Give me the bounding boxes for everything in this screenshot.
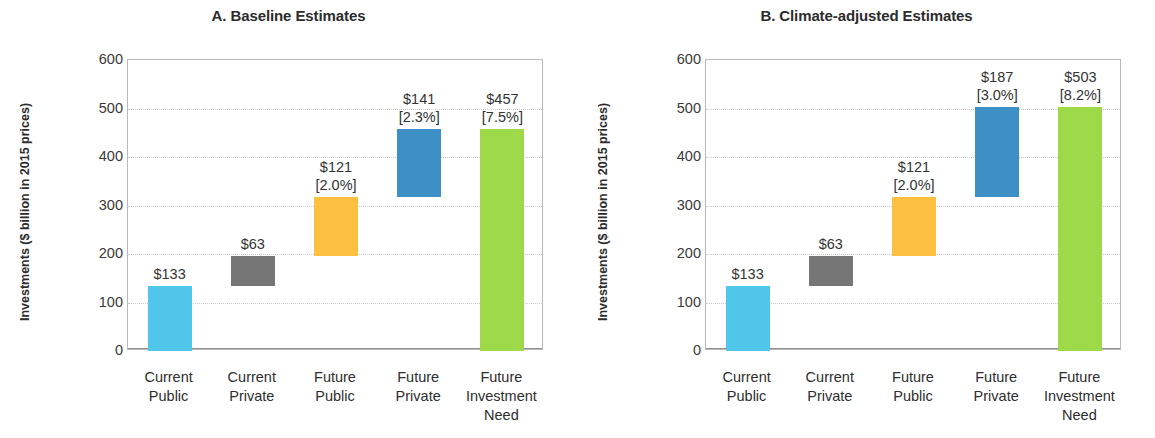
x-category-line: Need — [446, 406, 556, 425]
y-axis-title-b: Investments ($ billion in 2015 prices) — [596, 0, 636, 62]
bar-value-label: $63 — [819, 236, 843, 252]
bar-label-future-private: $187[3.0%] — [977, 68, 1018, 104]
x-category-line: Private — [209, 387, 295, 406]
y-tick-label-0: 0 — [659, 342, 701, 358]
x-category-line: Private — [787, 387, 873, 406]
y-tick-label-100: 100 — [659, 294, 701, 310]
y-axis-ticks-b: 0100200300400500600 — [657, 59, 701, 350]
y-tick-label-600: 600 — [81, 51, 123, 67]
x-category-future-public: FuturePublic — [870, 368, 956, 406]
bar-percent-label: [8.2%] — [1060, 86, 1101, 104]
y-tick-label-200: 200 — [659, 245, 701, 261]
x-category-future-public: FuturePublic — [292, 368, 378, 406]
bar-future-public — [314, 197, 358, 256]
x-category-future-investment-need: FutureInvestmentNeed — [1024, 368, 1134, 425]
x-category-current-public: CurrentPublic — [704, 368, 790, 406]
bar-label-current-private: $63 — [819, 235, 843, 253]
x-category-line: Future — [446, 368, 556, 387]
x-category-line: Public — [292, 387, 378, 406]
bar-value-label: $133 — [731, 266, 763, 282]
bar-label-future-public: $121[2.0%] — [893, 158, 934, 194]
x-category-current-private: CurrentPrivate — [787, 368, 873, 406]
gridline-500 — [128, 109, 542, 110]
bar-percent-label: [2.3%] — [399, 108, 440, 126]
panel-baseline-estimates: A. Baseline Estimates Investments ($ bil… — [0, 0, 577, 438]
bar-value-label: $121 — [898, 159, 930, 175]
bar-label-current-public: $133 — [731, 265, 763, 283]
x-category-current-private: CurrentPrivate — [209, 368, 295, 406]
y-axis-title-line2: ($ billion in 2015 prices) — [18, 103, 32, 245]
y-axis-title-line2: ($ billion in 2015 prices) — [596, 103, 610, 245]
x-category-line: Investment — [446, 387, 556, 406]
x-category-current-public: CurrentPublic — [126, 368, 212, 406]
bar-percent-label: [2.0%] — [893, 176, 934, 194]
y-axis-ticks-a: 0100200300400500600 — [79, 59, 123, 350]
x-category-line: Public — [704, 387, 790, 406]
bar-label-current-public: $133 — [153, 265, 185, 283]
x-category-line: Current — [209, 368, 295, 387]
x-axis-categories-a: CurrentPublicCurrentPrivateFuturePublicF… — [127, 368, 543, 438]
x-category-line: Future — [1024, 368, 1134, 387]
plot-area-b: $133$63$121[2.0%]$187[3.0%]$503[8.2%] — [705, 59, 1121, 350]
figure-root: A. Baseline Estimates Investments ($ bil… — [0, 0, 1155, 438]
bar-label-future-public: $121[2.0%] — [315, 158, 356, 194]
bar-value-label: $63 — [241, 236, 265, 252]
x-category-line: Investment — [1024, 387, 1134, 406]
panel-b-title: B. Climate-adjusted Estimates — [578, 7, 1155, 24]
y-axis-title-a: Investments ($ billion in 2015 prices) — [18, 0, 58, 62]
bar-value-label: $457 — [486, 91, 518, 107]
bar-percent-label: [3.0%] — [977, 86, 1018, 104]
bar-label-future-private: $141[2.3%] — [399, 90, 440, 126]
y-tick-label-0: 0 — [81, 342, 123, 358]
bar-current-private — [231, 256, 275, 287]
bar-label-current-private: $63 — [241, 235, 265, 253]
x-category-line: Current — [704, 368, 790, 387]
y-tick-label-400: 400 — [659, 148, 701, 164]
bar-value-label: $187 — [981, 69, 1013, 85]
bar-value-label: $503 — [1064, 69, 1096, 85]
bar-current-public — [148, 286, 192, 351]
y-tick-label-300: 300 — [81, 197, 123, 213]
x-axis-categories-b: CurrentPublicCurrentPrivateFuturePublicF… — [705, 368, 1121, 438]
x-category-line: Public — [870, 387, 956, 406]
y-axis-title-line1: Investments — [596, 248, 610, 321]
panel-climate-adjusted-estimates: B. Climate-adjusted Estimates Investment… — [578, 0, 1155, 438]
x-category-future-investment-need: FutureInvestmentNeed — [446, 368, 556, 425]
x-category-line: Public — [126, 387, 212, 406]
x-category-line: Current — [126, 368, 212, 387]
bar-percent-label: [7.5%] — [482, 108, 523, 126]
bar-value-label: $141 — [403, 91, 435, 107]
bar-label-future-investment-need: $503[8.2%] — [1060, 68, 1101, 104]
y-axis-title-line1: Investments — [18, 248, 32, 321]
bar-value-label: $121 — [320, 159, 352, 175]
bar-future-investment-need — [1058, 107, 1102, 351]
x-category-line: Future — [870, 368, 956, 387]
plot-area-a: $133$63$121[2.0%]$141[2.3%]$457[7.5%] — [127, 59, 543, 350]
bar-current-private — [809, 256, 853, 287]
bar-percent-label: [2.0%] — [315, 176, 356, 194]
bar-future-private — [975, 107, 1019, 198]
y-tick-label-500: 500 — [659, 100, 701, 116]
y-tick-label-600: 600 — [659, 51, 701, 67]
bar-future-investment-need — [480, 129, 524, 351]
x-category-line: Future — [292, 368, 378, 387]
x-category-line: Need — [1024, 406, 1134, 425]
y-tick-label-100: 100 — [81, 294, 123, 310]
bar-value-label: $133 — [153, 266, 185, 282]
y-tick-label-200: 200 — [81, 245, 123, 261]
bar-current-public — [726, 286, 770, 351]
bar-label-future-investment-need: $457[7.5%] — [482, 90, 523, 126]
y-tick-label-500: 500 — [81, 100, 123, 116]
bar-future-public — [892, 197, 936, 256]
x-category-line: Current — [787, 368, 873, 387]
bar-future-private — [397, 129, 441, 197]
panel-a-title: A. Baseline Estimates — [0, 7, 577, 24]
y-tick-label-400: 400 — [81, 148, 123, 164]
y-tick-label-300: 300 — [659, 197, 701, 213]
